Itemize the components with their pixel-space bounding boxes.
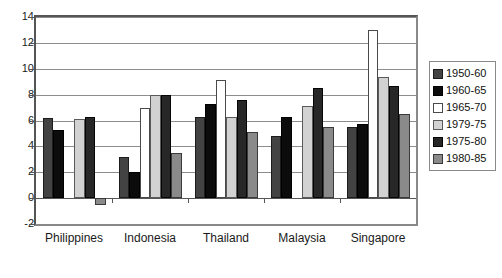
gridline xyxy=(36,69,416,70)
legend-label: 1980-85 xyxy=(446,153,486,164)
bar xyxy=(95,198,106,205)
plot-inner xyxy=(36,17,416,224)
bar xyxy=(74,119,85,198)
bar xyxy=(347,127,358,198)
bar xyxy=(302,106,313,198)
category-separator-tick xyxy=(112,198,113,203)
bar xyxy=(313,88,324,198)
legend-item[interactable]: 1965-70 xyxy=(433,99,493,116)
bar xyxy=(43,118,54,198)
x-axis-category-label: Thailand xyxy=(188,231,264,245)
bar xyxy=(357,124,368,198)
legend-item[interactable]: 1975-80 xyxy=(433,133,493,150)
bar xyxy=(368,30,379,198)
bar xyxy=(226,117,237,199)
gridline xyxy=(36,17,416,18)
legend-swatch-icon xyxy=(433,69,443,79)
category-separator-tick xyxy=(188,198,189,203)
bar xyxy=(140,108,151,199)
bar xyxy=(129,172,140,198)
bar xyxy=(85,117,96,199)
bar xyxy=(150,95,161,199)
legend-swatch-icon xyxy=(433,154,443,164)
x-axis-category-label: Indonesia xyxy=(112,231,188,245)
bar xyxy=(281,117,292,199)
legend-label: 1979-75 xyxy=(446,119,486,130)
bar xyxy=(205,104,216,198)
legend-swatch-icon xyxy=(433,103,443,113)
category-separator-tick xyxy=(264,198,265,203)
bar xyxy=(216,80,227,198)
x-axis-category-label: Philippines xyxy=(36,231,112,245)
legend-item[interactable]: 1980-85 xyxy=(433,150,493,167)
bar xyxy=(195,117,206,199)
legend-label: 1950-60 xyxy=(446,68,486,79)
bar xyxy=(271,136,282,198)
gridline xyxy=(36,95,416,96)
x-axis-category-label: Singapore xyxy=(340,231,416,245)
legend-item[interactable]: 1960-65 xyxy=(433,82,493,99)
x-axis-category-label: Malaysia xyxy=(264,231,340,245)
legend-label: 1960-65 xyxy=(446,85,486,96)
bar-chart: 14121086420-2 1950-601960-651965-701979-… xyxy=(0,0,502,278)
legend-item[interactable]: 1950-60 xyxy=(433,65,493,82)
legend-item[interactable]: 1979-75 xyxy=(433,116,493,133)
legend-label: 1965-70 xyxy=(446,102,486,113)
legend-swatch-icon xyxy=(433,137,443,147)
legend-swatch-icon xyxy=(433,86,443,96)
plot-area xyxy=(34,15,418,226)
bar xyxy=(237,100,248,198)
category-separator-tick xyxy=(340,198,341,203)
bar xyxy=(247,132,258,198)
bar xyxy=(161,95,172,199)
legend-label: 1975-80 xyxy=(446,136,486,147)
bar xyxy=(171,153,182,198)
bar xyxy=(378,77,389,199)
y-axis: 14121086420-2 xyxy=(0,0,34,278)
bar xyxy=(323,127,334,198)
bar xyxy=(119,157,130,198)
legend-swatch-icon xyxy=(433,120,443,130)
bar xyxy=(399,114,410,198)
gridline xyxy=(36,43,416,44)
bar xyxy=(53,130,64,199)
legend: 1950-601960-651965-701979-751975-801980-… xyxy=(429,61,496,171)
bar xyxy=(389,86,400,199)
zero-baseline xyxy=(36,198,416,199)
